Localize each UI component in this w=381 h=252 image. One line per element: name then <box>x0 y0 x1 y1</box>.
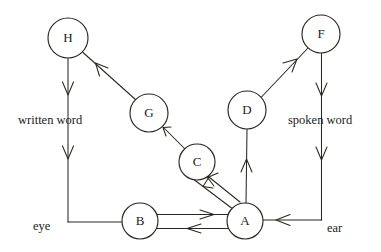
caption-spoken-word: spoken word <box>288 113 353 127</box>
caption-ear: ear <box>327 221 343 235</box>
edge-h-to-eye <box>63 58 74 222</box>
edge-line-d-f <box>261 48 308 98</box>
edge-c-to-g <box>163 127 186 150</box>
node-a[interactable]: A <box>227 203 263 239</box>
node-d-label: D <box>242 102 251 117</box>
edge-a-to-c <box>195 177 232 208</box>
edge-f-to-ear <box>316 53 327 220</box>
caption-eye: eye <box>33 219 51 233</box>
edge-line-g-h <box>83 53 136 101</box>
edge-a-to-b <box>157 224 228 233</box>
node-f-label: F <box>317 26 324 41</box>
node-g[interactable]: G <box>130 94 168 132</box>
edge-d-to-f <box>261 48 308 98</box>
node-f[interactable]: F <box>302 15 340 53</box>
node-c[interactable]: C <box>179 144 215 180</box>
edge-line-c-g <box>163 127 186 150</box>
edge-ear-to-a <box>263 215 322 226</box>
language-model-schematic: H F G D C B A written word spoken w <box>0 0 381 252</box>
edge-g-to-h <box>83 53 136 101</box>
diagram-canvas: H F G D C B A written word spoken w <box>0 0 381 252</box>
node-c-label: C <box>193 154 202 169</box>
caption-written-word: written word <box>18 113 83 127</box>
node-a-label: A <box>240 213 250 228</box>
node-g-label: G <box>144 105 153 120</box>
arrowhead-d-to-f <box>283 59 297 72</box>
node-d[interactable]: D <box>228 91 266 129</box>
node-b-label: B <box>136 213 145 228</box>
node-h[interactable]: H <box>48 18 88 58</box>
edge-a-to-d <box>241 129 252 203</box>
edge-line-a-d <box>246 129 247 203</box>
node-b[interactable]: B <box>122 203 158 239</box>
edge-b-to-a <box>157 210 228 219</box>
node-h-label: H <box>63 30 72 45</box>
